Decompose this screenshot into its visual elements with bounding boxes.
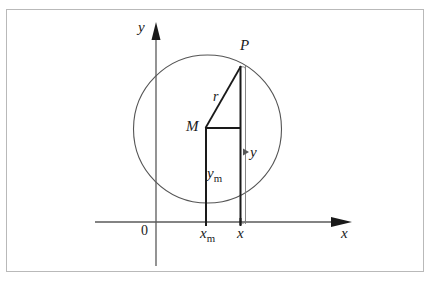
radius-label-r: r (213, 90, 218, 104)
origin-label: 0 (141, 224, 148, 238)
radius-segment-mp (206, 66, 242, 128)
y-measure-arrow-icon (243, 149, 249, 156)
height-label-ym-subscript: m (214, 172, 222, 184)
y-axis-label: y (138, 20, 145, 35)
point-label-m: M (186, 119, 199, 134)
height-label-y: y (250, 145, 257, 160)
geometry-diagram-canvas (0, 0, 436, 283)
tick-label-x: x (237, 226, 244, 241)
point-label-p: P (240, 38, 249, 53)
height-label-ym-main: y (207, 165, 214, 181)
tick-label-xm: xm (200, 226, 215, 244)
y-axis-arrow-icon (152, 22, 161, 40)
tick-label-xm-main: x (200, 225, 207, 241)
x-axis-label: x (341, 226, 348, 241)
y-measure-cap-top (242, 67, 246, 70)
height-label-ym: ym (207, 166, 222, 184)
tick-label-xm-subscript: m (207, 232, 215, 244)
figure-root: y x 0 P M r y ym xm x (0, 0, 436, 283)
